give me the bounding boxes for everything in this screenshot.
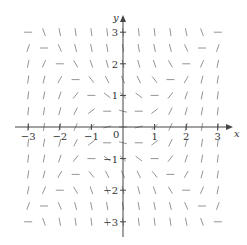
slope-segment (152, 171, 157, 177)
slope-segment (217, 76, 218, 84)
slope-segment (168, 155, 173, 161)
slope-segment (91, 218, 92, 226)
slope-segment (138, 218, 139, 226)
slope-segment (59, 107, 61, 115)
slope-segment (138, 28, 139, 36)
slope-segment (138, 44, 139, 52)
slope-segment (74, 108, 78, 115)
slope-segment (154, 202, 156, 210)
slope-segment (43, 139, 44, 147)
slope-segment (168, 187, 172, 194)
slope-segment (28, 170, 29, 178)
y-tick-label: 3 (112, 27, 118, 38)
slope-segment (59, 218, 61, 226)
slope-segment (184, 76, 188, 83)
slope-segment (201, 155, 203, 163)
slope-segment (27, 202, 30, 210)
slope-segment (137, 76, 141, 83)
slope-segment (136, 93, 142, 98)
slope-segment (107, 202, 108, 210)
slope-segment (27, 60, 29, 68)
slope-segment (104, 93, 110, 98)
y-tick-label: 1 (112, 90, 118, 101)
slope-segment (168, 92, 173, 98)
slope-segment (201, 218, 204, 226)
slope-segment (184, 171, 188, 178)
slope-segment (88, 109, 94, 114)
slope-segment (201, 28, 204, 36)
slope-segment (185, 92, 188, 100)
y-axis-label: y (112, 12, 119, 23)
slope-segment (217, 60, 219, 68)
slope-segment (90, 186, 93, 194)
slope-segment (168, 60, 172, 67)
slope-segment (154, 44, 156, 52)
x-tick-label: 2 (183, 131, 189, 142)
slope-segment (169, 44, 171, 52)
slope-segment (91, 202, 93, 210)
slope-segment (217, 107, 218, 115)
slope-segment (89, 171, 94, 177)
y-tick-label: −3 (103, 217, 118, 228)
y-tick-label: −1 (103, 154, 118, 165)
slope-segment (105, 76, 109, 83)
slope-segment (74, 139, 78, 146)
y-tick-label: 2 (112, 59, 118, 70)
slope-segment (28, 91, 29, 99)
slope-segment (107, 44, 108, 52)
slope-segment (217, 170, 218, 178)
slope-segment (75, 44, 77, 52)
slope-segment (138, 60, 140, 68)
slope-segment (43, 28, 46, 36)
slope-segment (43, 91, 45, 99)
slope-field-diagram: −3−2−1123321−1−2−3 x y 0 (0, 0, 247, 245)
slope-segment (105, 171, 109, 178)
x-tick-label: −1 (84, 131, 99, 142)
slope-segment (28, 155, 29, 163)
slope-segment (91, 44, 93, 52)
slope-segment (27, 44, 30, 52)
x-tick-label: −2 (52, 131, 67, 142)
slope-segment (154, 218, 155, 226)
slope-segment (137, 171, 141, 178)
slope-segment (169, 139, 173, 146)
slope-segment (169, 108, 173, 115)
slope-segment (43, 107, 44, 115)
y-tick-label: −2 (103, 185, 118, 196)
slope-segment (58, 171, 62, 178)
slope-segment (75, 218, 76, 226)
slope-segment (107, 28, 108, 36)
slope-segment (91, 28, 92, 36)
x-tick-label: 3 (215, 131, 221, 142)
slope-segment (28, 76, 29, 84)
slope-segment (43, 171, 45, 179)
slope-segment (90, 60, 93, 68)
slope-segment (201, 107, 202, 115)
slope-segment (58, 76, 62, 83)
slope-segment (106, 60, 108, 68)
slope-segment (73, 92, 78, 98)
slope-segment (201, 76, 203, 84)
slope-segment (59, 155, 62, 163)
slope-segment (200, 60, 203, 67)
slope-segment (58, 44, 61, 51)
slope-segment (185, 44, 188, 51)
slope-segment (58, 202, 61, 209)
slope-segment (217, 186, 219, 194)
slope-segment (216, 44, 219, 52)
x-axis-arrow-icon (226, 124, 233, 130)
slope-segment (74, 187, 78, 194)
slope-segment (43, 155, 45, 163)
slope-segment (217, 155, 218, 163)
slope-segment (75, 202, 77, 210)
slope-segment (43, 76, 45, 84)
slope-segment (153, 60, 156, 68)
slope-segment (154, 28, 155, 36)
slope-segment (217, 91, 218, 99)
origin-label: 0 (113, 129, 119, 140)
slope-segment (151, 109, 157, 114)
slope-segment (185, 218, 187, 226)
slope-segment (201, 139, 202, 147)
slope-segment (89, 76, 94, 82)
slope-segment (42, 187, 45, 194)
